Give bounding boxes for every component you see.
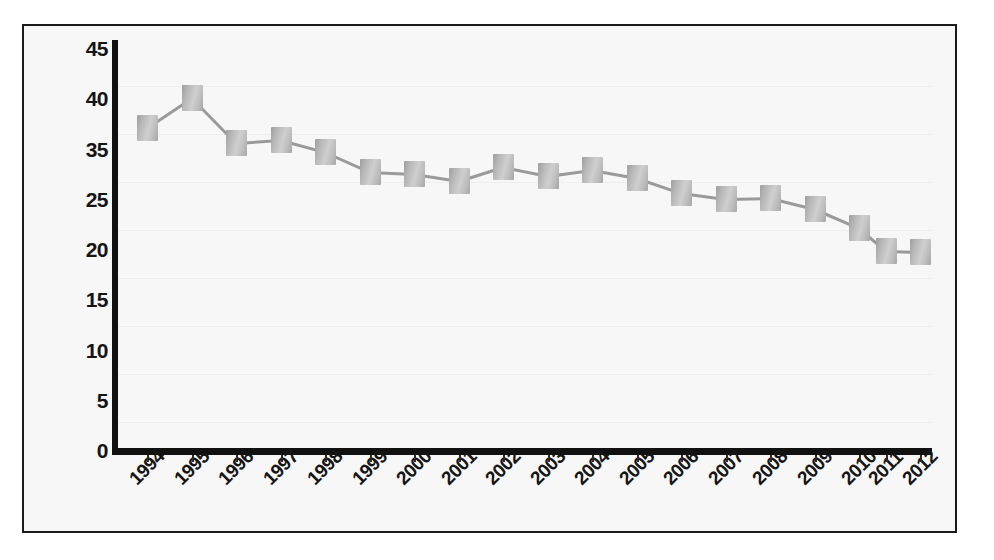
data-point-marker	[910, 239, 931, 265]
x-tick-mark	[414, 455, 416, 462]
data-point-marker	[404, 161, 425, 187]
plot-area: 4540352520151050 19941995199619971998199…	[24, 26, 955, 531]
x-tick-mark	[370, 455, 372, 462]
data-point-marker	[137, 115, 158, 141]
data-point-marker	[760, 185, 781, 211]
data-series	[24, 26, 955, 466]
x-tick-mark	[770, 455, 772, 462]
x-tick-mark	[815, 455, 817, 462]
x-tick-mark	[681, 455, 683, 462]
x-tick-mark	[147, 455, 149, 462]
x-tick-mark	[637, 455, 639, 462]
x-tick-mark	[886, 455, 888, 462]
x-tick-mark	[859, 455, 861, 462]
data-point-marker	[627, 165, 648, 191]
data-point-marker	[360, 159, 381, 185]
x-tick-mark	[236, 455, 238, 462]
data-point-marker	[182, 85, 203, 111]
data-point-marker	[271, 127, 292, 153]
x-tick-mark	[459, 455, 461, 462]
data-point-marker	[849, 215, 870, 241]
x-tick-mark	[281, 455, 283, 462]
x-axis-tick-labels: 1994199519961997199819992000200120022003…	[24, 456, 955, 531]
data-point-marker	[493, 154, 514, 180]
data-point-marker	[716, 186, 737, 212]
data-point-marker	[671, 180, 692, 206]
data-point-marker	[582, 157, 603, 183]
data-point-marker	[315, 139, 336, 165]
data-point-marker	[449, 168, 470, 194]
chart-figure: 4540352520151050 19941995199619971998199…	[22, 24, 957, 533]
data-point-marker	[876, 238, 897, 264]
x-tick-mark	[548, 455, 550, 462]
x-tick-mark	[920, 455, 922, 462]
x-tick-mark	[592, 455, 594, 462]
x-tick-mark	[726, 455, 728, 462]
data-point-marker	[226, 130, 247, 156]
x-tick-mark	[503, 455, 505, 462]
x-tick-mark	[325, 455, 327, 462]
data-point-marker	[805, 196, 826, 222]
x-tick-mark	[192, 455, 194, 462]
data-point-marker	[538, 163, 559, 189]
